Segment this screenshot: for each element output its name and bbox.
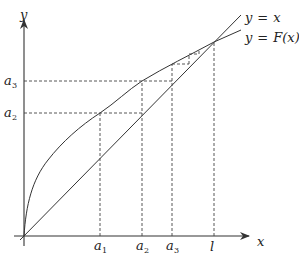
svg-text:a: a: [136, 238, 144, 253]
F-curve-label: y=F(x): [244, 30, 299, 45]
svg-text:3: 3: [12, 81, 17, 90]
cobweb-diagram: y x y=x y=F(x) a 1 a 2 a 3 l a 3 a 2: [0, 0, 299, 260]
svg-text:l: l: [210, 239, 214, 254]
y-tick-a3: a 3: [4, 73, 17, 90]
x-tick-a3: a 3: [166, 238, 179, 255]
F-curve: [24, 30, 241, 236]
svg-text:2: 2: [12, 113, 17, 122]
x-tick-l: l: [210, 239, 214, 254]
svg-text:y=F(x): y=F(x): [244, 30, 299, 45]
x-tick-a1: a 1: [94, 238, 107, 255]
x-axis-label: x: [257, 234, 265, 249]
x-tick-a2: a 2: [136, 238, 149, 255]
identity-line-label: y=x: [244, 10, 281, 25]
svg-text:a: a: [4, 73, 12, 88]
svg-text:1: 1: [102, 246, 107, 255]
svg-text:a: a: [94, 238, 102, 253]
svg-text:y=x: y=x: [244, 10, 281, 25]
svg-text:2: 2: [144, 246, 149, 255]
svg-text:a: a: [4, 105, 12, 120]
y-axis-label: y: [19, 7, 28, 22]
svg-text:a: a: [166, 238, 174, 253]
svg-text:3: 3: [174, 246, 179, 255]
identity-line: [20, 15, 241, 240]
y-tick-a2: a 2: [4, 105, 17, 122]
